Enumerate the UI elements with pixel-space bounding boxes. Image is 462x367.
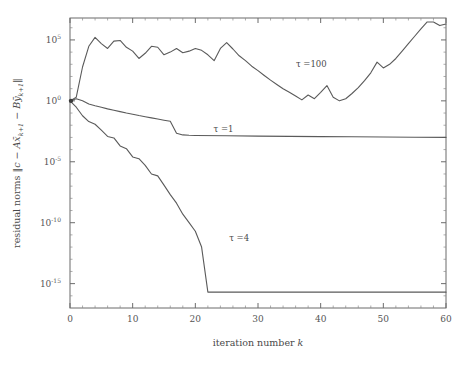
plot-labels: τ =100τ =1τ =4iteration number kresidual… (11, 59, 327, 348)
x-axis-title-var: k (298, 337, 304, 348)
x-tick-label: 20 (190, 314, 202, 324)
y-tick-exponent: -5 (55, 155, 61, 162)
y-tick-exponent: 5 (57, 33, 61, 40)
x-axis-title: iteration number k (213, 337, 304, 348)
figure-container: 010203040506010510010-510-1010-15 τ =100… (0, 0, 462, 367)
y-tick-label: 10-15 (40, 277, 61, 289)
y-axis-title-prefix: residual norms (11, 173, 22, 248)
annotation-tau=1: τ =1 (214, 124, 234, 134)
series-tau=1 (70, 99, 446, 138)
y-axis-B: B (11, 102, 22, 110)
y-tick-mantissa: 10 (44, 157, 56, 167)
y-axis-minus-2: − (11, 109, 22, 123)
y-tick-exponent: -10 (51, 216, 61, 223)
y-tick-mantissa: 10 (40, 218, 52, 228)
y-tick-label: 10-5 (44, 155, 61, 167)
y-axis-y-subscript: k+1 (17, 83, 25, 97)
x-tick-label: 40 (315, 314, 327, 324)
x-tick-label: 30 (252, 314, 264, 324)
y-tick-exponent: 0 (57, 94, 61, 101)
y-tick-mantissa: 10 (40, 279, 52, 289)
series-tau=4 (70, 101, 446, 292)
y-tick-mantissa: 10 (46, 35, 58, 45)
annotation-tau=4: τ =4 (229, 233, 249, 243)
series-tau=100 (70, 22, 446, 101)
origin-marker (69, 99, 73, 103)
x-axis-title-text: iteration number (213, 337, 298, 348)
y-axis-A: A (11, 142, 22, 150)
y-axis-x-subscript: k+1 (17, 123, 25, 137)
x-tick-label: 10 (127, 314, 139, 324)
y-axis-title: residual norms ‖c − Ax̄k+1 − Bȳk+1‖ (11, 78, 25, 248)
y-tick-mantissa: 10 (46, 96, 58, 106)
y-axis-norm-close: ‖ (11, 78, 23, 83)
plot-series (69, 22, 446, 292)
x-tick-label: 50 (378, 314, 390, 324)
y-axis-minus-1: − (11, 149, 22, 163)
x-tick-label: 60 (440, 314, 452, 324)
plot-frame (70, 18, 446, 308)
y-tick-label: 10-10 (40, 216, 61, 228)
y-tick-label: 100 (46, 94, 61, 106)
y-tick-exponent: -15 (51, 277, 61, 284)
y-tick-label: 105 (46, 33, 61, 45)
residual-norms-chart: 010203040506010510010-510-1010-15 τ =100… (0, 0, 462, 367)
annotation-tau=100: τ =100 (296, 59, 327, 69)
x-tick-label: 0 (67, 314, 73, 324)
